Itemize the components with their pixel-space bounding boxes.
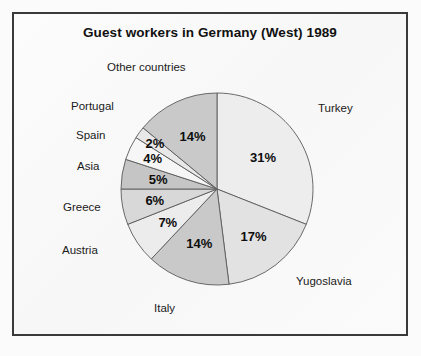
pie-value-label-austria: 7%: [158, 215, 177, 230]
chart-frame: Guest workers in Germany (West) 1989 31%…: [12, 12, 408, 336]
category-label-austria: Austria: [62, 244, 98, 256]
category-label-turkey: Turkey: [318, 102, 353, 114]
pie-value-label-portugal: 2%: [146, 136, 165, 151]
pie-slices-group: [121, 93, 313, 285]
category-label-asia: Asia: [77, 160, 99, 172]
category-label-yugoslavia: Yugoslavia: [296, 275, 352, 287]
pie-chart-area: 31%17%14%7%6%5%4%2%14% Other countries P…: [14, 14, 410, 338]
pie-value-label-spain: 4%: [143, 151, 162, 166]
pie-value-label-other-countries: 14%: [179, 129, 205, 144]
category-label-other-countries: Other countries: [107, 61, 186, 73]
category-label-portugal: Portugal: [71, 100, 114, 112]
pie-chart-svg: 31%17%14%7%6%5%4%2%14%: [14, 14, 410, 338]
category-label-greece: Greece: [63, 201, 101, 213]
pie-value-label-italy: 14%: [186, 236, 212, 251]
category-label-spain: Spain: [76, 129, 105, 141]
pie-value-label-asia: 5%: [149, 172, 168, 187]
category-label-italy: Italy: [154, 302, 175, 314]
pie-value-label-greece: 6%: [145, 193, 164, 208]
pie-value-label-turkey: 31%: [250, 150, 276, 165]
pie-value-label-yugoslavia: 17%: [240, 229, 266, 244]
